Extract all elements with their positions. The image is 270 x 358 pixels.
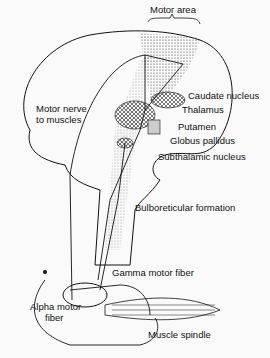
- label-spindle: Muscle spindle: [148, 329, 211, 340]
- label-globus: Globus pallidus: [170, 135, 235, 146]
- label-gamma: Gamma motor fiber: [112, 267, 194, 278]
- label-motor-nerve-2: to muscles: [36, 114, 81, 125]
- corticospinal-tract: [105, 55, 150, 250]
- label-bulboreticular: Bulboreticular formation: [135, 202, 235, 213]
- label-subthalamic: Subthalamic nucleus: [158, 151, 246, 162]
- label-alpha-1: Alpha motor: [30, 301, 81, 312]
- label-caudate: Caudate nucleus: [188, 90, 259, 101]
- caudate-nucleus: [151, 92, 185, 108]
- label-putamen: Putamen: [178, 121, 216, 132]
- label-motor-area: Motor area: [150, 4, 196, 15]
- muscle: [105, 298, 220, 320]
- label-alpha-2: fiber: [45, 312, 63, 323]
- label-motor-nerve-1: Motor nerve: [36, 103, 87, 114]
- putamen: [148, 120, 160, 134]
- label-thalamus: Thalamus: [182, 104, 224, 115]
